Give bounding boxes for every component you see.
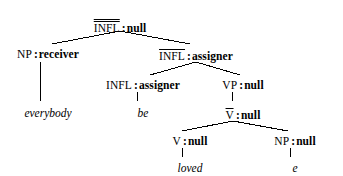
node-separator: : xyxy=(132,79,139,91)
node-value-label: assigner xyxy=(139,79,180,91)
node-category-label: NP xyxy=(274,135,289,147)
node-separator: : xyxy=(289,135,296,147)
node-v-head: V:null xyxy=(173,135,208,148)
infl-bar-to-infl-head xyxy=(150,62,196,75)
node-value-label: null xyxy=(296,135,316,147)
leaf-empty-category: e xyxy=(292,162,297,175)
leaf-be: be xyxy=(138,107,149,120)
node-value-label: null xyxy=(241,109,261,121)
node-value-label: assigner xyxy=(192,50,233,62)
v-bar-to-v-head xyxy=(182,121,233,131)
node-np-object: NP:null xyxy=(274,135,315,148)
node-value-label: null xyxy=(127,22,147,34)
node-separator: : xyxy=(237,79,244,91)
node-category-label: NP xyxy=(17,48,32,60)
node-infl-bar: INFL:assigner xyxy=(159,48,233,63)
node-category-label: INFL xyxy=(94,21,120,35)
syntax-tree-figure: INFL:null NP:receiver INFL:assigner INFL… xyxy=(0,0,343,176)
node-value-label: null xyxy=(188,135,208,147)
node-vp: VP:null xyxy=(222,79,263,92)
node-value-label: receiver xyxy=(39,48,79,60)
node-np-subject: NP:receiver xyxy=(17,48,79,61)
node-root-infl-double-bar: INFL:null xyxy=(94,18,147,35)
node-category-label: V xyxy=(226,108,234,122)
node-category-label: INFL xyxy=(159,49,185,63)
v-bar-to-np-object xyxy=(233,121,288,131)
node-category-label: VP xyxy=(222,79,237,91)
node-value-label: null xyxy=(244,79,264,91)
infl-bar-to-vp xyxy=(196,62,240,75)
node-infl-head: INFL:assigner xyxy=(106,79,180,92)
node-separator: : xyxy=(185,50,192,62)
node-separator: : xyxy=(120,22,127,34)
leaf-loved: loved xyxy=(178,162,203,175)
node-separator: : xyxy=(32,48,39,60)
node-v-bar: V:null xyxy=(226,107,261,122)
node-category-label: INFL xyxy=(106,79,132,91)
leaf-everybody: everybody xyxy=(24,107,71,120)
